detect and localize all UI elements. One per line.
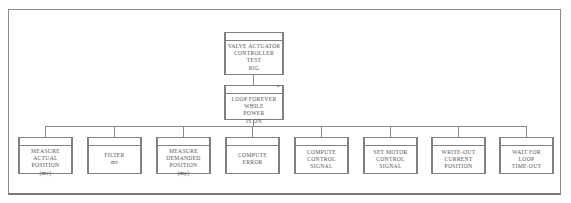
drop-child-2 (114, 126, 115, 137)
drop-child-1 (45, 126, 46, 137)
child-5-line-1: COMPUTE (296, 149, 347, 156)
root-node-label: VALVE ACTUATOR CONTROLLER TEST RIG (226, 41, 282, 72)
loop-line-2: WHILE (226, 103, 282, 110)
child-node-label: COMPUTE ERROR (227, 146, 278, 166)
child-3-line-1: MEASURE (158, 148, 209, 155)
child-1-line-2: ACTUAL (20, 155, 71, 162)
child-5-line-3: SIGNAL (296, 163, 347, 170)
child-2-line-1: FILTER (89, 152, 140, 159)
child-7-line-1: WRITE-OUT (433, 149, 484, 156)
child-node-header (158, 138, 209, 146)
child-3-line-2: DEMANDED (158, 155, 209, 162)
root-node-header (226, 33, 282, 41)
child-node-label: SET MOTOR CONTROL SIGNAL (365, 146, 416, 171)
horizontal-bus (45, 126, 526, 127)
child-node-write-out-current-position: WRITE-OUT CURRENT POSITION (431, 137, 486, 174)
drop-child-6 (390, 126, 391, 137)
child-node-measure-demanded-position: MEASURE DEMANDED POSITION (mp) (156, 137, 211, 174)
child-node-label: COMPUTE CONTROL SIGNAL (296, 146, 347, 171)
loop-line-1: LOOP FOREVER (226, 96, 282, 103)
drop-child-7 (458, 126, 459, 137)
root-line-4: RIG (226, 65, 282, 72)
child-1-line-3: POSITION (20, 162, 71, 169)
drop-child-8 (526, 126, 527, 137)
child-8-line-3: TIME-OUT (501, 163, 552, 170)
child-node-header (227, 138, 278, 146)
drop-child-3 (183, 126, 184, 137)
loop-line-3: POWER (226, 110, 282, 117)
child-6-line-2: CONTROL (365, 156, 416, 163)
root-node-valve-actuator-controller: VALVE ACTUATOR CONTROLLER TEST RIG (224, 32, 284, 75)
loop-node-label: LOOP FOREVER WHILE POWER IS ON (226, 94, 282, 125)
child-node-header (365, 138, 416, 146)
child-node-measure-actual-position: MEASURE ACTUAL POSITION (mv) (18, 137, 73, 174)
root-line-2: CONTROLLER (226, 50, 282, 57)
iteration-star-icon: * (277, 83, 281, 91)
child-node-compute-control-signal: COMPUTE CONTROL SIGNAL (294, 137, 349, 174)
child-6-line-1: SET MOTOR (365, 149, 416, 156)
child-2-line-2: mv (89, 159, 140, 166)
root-line-1: VALVE ACTUATOR (226, 43, 282, 50)
child-8-line-2: LOOP (501, 156, 552, 163)
child-3-line-4: (mp) (158, 170, 209, 177)
child-node-header (20, 138, 71, 146)
child-node-label: MEASURE DEMANDED POSITION (mp) (158, 146, 209, 177)
child-node-label: WAIT FOR LOOP TIME-OUT (501, 146, 552, 171)
loop-node-header: * (226, 86, 282, 94)
child-node-header (501, 138, 552, 146)
child-1-line-1: MEASURE (20, 148, 71, 155)
child-5-line-2: CONTROL (296, 156, 347, 163)
drop-child-5 (321, 126, 322, 137)
child-4-line-1: COMPUTE (227, 152, 278, 159)
child-6-line-3: SIGNAL (365, 163, 416, 170)
root-line-3: TEST (226, 57, 282, 64)
child-node-header (89, 138, 140, 146)
child-1-line-4: (mv) (20, 170, 71, 177)
connector-root-to-loop (253, 75, 254, 85)
child-8-line-1: WAIT FOR (501, 149, 552, 156)
child-node-set-motor-control-signal: SET MOTOR CONTROL SIGNAL (363, 137, 418, 174)
child-node-header (433, 138, 484, 146)
child-node-label: WRITE-OUT CURRENT POSITION (433, 146, 484, 171)
loop-line-4: IS ON (226, 118, 282, 125)
child-3-line-3: POSITION (158, 162, 209, 169)
drop-child-4 (252, 126, 253, 137)
child-node-filter-mv: FILTER mv (87, 137, 142, 174)
loop-node-forever: * LOOP FOREVER WHILE POWER IS ON (224, 85, 284, 120)
child-node-wait-for-loop-time-out: WAIT FOR LOOP TIME-OUT (499, 137, 554, 174)
child-node-compute-error: COMPUTE ERROR (225, 137, 280, 174)
child-node-header (296, 138, 347, 146)
child-7-line-3: POSITION (433, 163, 484, 170)
child-4-line-2: ERROR (227, 159, 278, 166)
child-node-label: FILTER mv (89, 146, 140, 166)
child-7-line-2: CURRENT (433, 156, 484, 163)
child-node-label: MEASURE ACTUAL POSITION (mv) (20, 146, 71, 177)
